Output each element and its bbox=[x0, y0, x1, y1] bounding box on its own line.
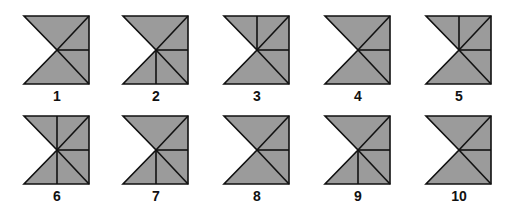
notched-square-shape bbox=[323, 14, 393, 86]
figure-option-8[interactable]: 8 bbox=[222, 114, 292, 204]
notched-square-shape bbox=[121, 114, 191, 186]
notched-square-shape bbox=[424, 14, 494, 86]
figure-number-label: 6 bbox=[22, 188, 92, 204]
figure-option-9[interactable]: 9 bbox=[323, 114, 393, 204]
notched-square-shape bbox=[22, 114, 92, 186]
figure-option-4[interactable]: 4 bbox=[323, 14, 393, 104]
notched-square-shape bbox=[424, 114, 494, 186]
figure-option-3[interactable]: 3 bbox=[222, 14, 292, 104]
figure-number-label: 2 bbox=[121, 88, 191, 104]
figure-option-1[interactable]: 1 bbox=[22, 14, 92, 104]
figure-number-label: 7 bbox=[121, 188, 191, 204]
figure-number-label: 8 bbox=[222, 188, 292, 204]
figure-option-7[interactable]: 7 bbox=[121, 114, 191, 204]
figure-number-label: 4 bbox=[323, 88, 393, 104]
notched-square-shape bbox=[22, 14, 92, 86]
figure-option-5[interactable]: 5 bbox=[424, 14, 494, 104]
figure-option-6[interactable]: 6 bbox=[22, 114, 92, 204]
figure-number-label: 5 bbox=[424, 88, 494, 104]
notched-square-shape bbox=[222, 114, 292, 186]
notched-square-shape bbox=[323, 114, 393, 186]
figure-option-2[interactable]: 2 bbox=[121, 14, 191, 104]
figure-number-label: 3 bbox=[222, 88, 292, 104]
figure-number-label: 10 bbox=[424, 188, 494, 204]
figure-number-label: 9 bbox=[323, 188, 393, 204]
notched-square-shape bbox=[121, 14, 191, 86]
figure-option-10[interactable]: 10 bbox=[424, 114, 494, 204]
notched-square-shape bbox=[222, 14, 292, 86]
figure-number-label: 1 bbox=[22, 88, 92, 104]
